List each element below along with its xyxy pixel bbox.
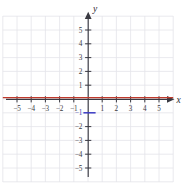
y-tick-label: −5 — [75, 165, 83, 173]
y-tick-label-negative-one: −1 — [75, 109, 83, 117]
y-tick-label: 4 — [79, 40, 83, 48]
x-tick-label: 4 — [143, 105, 147, 113]
x-tick-label: 1 — [100, 105, 104, 113]
graph-canvas: −5 −4 −3 −2 −1 1 2 3 4 5 5 4 3 2 1 −1 −2… — [0, 0, 189, 190]
coordinate-plane-figure: −5 −4 −3 −2 −1 1 2 3 4 5 5 4 3 2 1 −1 −2… — [0, 0, 189, 190]
y-axis-label: y — [92, 4, 98, 14]
y-tick-label: −3 — [75, 137, 83, 145]
y-tick-label: 2 — [79, 68, 83, 76]
y-tick-label: −4 — [75, 151, 83, 159]
x-axis-label: x — [175, 95, 181, 105]
x-tick-label: −5 — [13, 105, 21, 113]
x-tick-label: 5 — [157, 105, 161, 113]
y-tick-label: 5 — [79, 27, 83, 35]
x-tick-label: 3 — [129, 105, 133, 113]
x-tick-label: 2 — [115, 105, 119, 113]
x-tick-label: −4 — [27, 105, 35, 113]
y-tick-label: −2 — [75, 123, 83, 131]
plot-area: −5 −4 −3 −2 −1 1 2 3 4 5 5 4 3 2 1 −1 −2… — [0, 0, 189, 190]
x-tick-label: −3 — [42, 105, 50, 113]
x-axis-tick-labels: −5 −4 −3 −2 −1 1 2 3 4 5 — [13, 105, 161, 113]
x-tick-label: −2 — [56, 105, 64, 113]
y-axis-arrowhead — [85, 12, 92, 19]
y-tick-label: 1 — [79, 82, 83, 90]
y-tick-label: 3 — [79, 54, 83, 62]
